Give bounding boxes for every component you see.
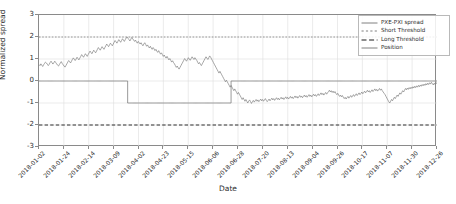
y-tick-label: 0 (20, 77, 34, 84)
solid-line-icon (361, 19, 378, 27)
dashed-line-icon (361, 36, 378, 44)
legend-item[interactable]: Long Threshold (361, 36, 446, 44)
x-tick-mark (88, 146, 89, 149)
legend-item[interactable]: PXE-PXI spread (361, 19, 446, 27)
x-tick-mark (63, 146, 64, 149)
x-tick-mark (386, 146, 387, 149)
x-tick-mark (113, 146, 114, 149)
x-tick-mark (138, 146, 139, 149)
x-tick-mark (212, 146, 213, 149)
y-tick-label: -1 (20, 99, 34, 106)
x-tick-mark (287, 146, 288, 149)
y-axis-label: Normalized spread (0, 10, 7, 80)
y-tick-label: 3 (20, 11, 34, 18)
legend-item[interactable]: Position (361, 44, 446, 52)
x-axis-label: Date (0, 184, 456, 193)
x-tick-mark (337, 146, 338, 149)
chart-figure: Normalized spread 3210-1-2-3 2018-01-022… (0, 0, 456, 204)
x-tick-mark (262, 146, 263, 149)
x-tick-mark (187, 146, 188, 149)
legend-label: Long Threshold (381, 37, 424, 43)
legend-label: Position (381, 45, 403, 51)
x-tick-mark (436, 146, 437, 149)
x-tick-mark (162, 146, 163, 149)
legend-label: Short Threshold (381, 28, 425, 34)
x-tick-mark (312, 146, 313, 149)
x-tick-mark (361, 146, 362, 149)
solid-line-icon (361, 44, 378, 52)
legend-label: PXE-PXI spread (381, 20, 423, 26)
chart-legend: PXE-PXI spread Short Threshold Long Thre… (358, 15, 450, 56)
dotted-line-icon (361, 27, 378, 35)
legend-item[interactable]: Short Threshold (361, 27, 446, 35)
x-tick-mark (411, 146, 412, 149)
x-tick-mark (237, 146, 238, 149)
y-tick-label: 2 (20, 33, 34, 40)
y-tick-label: -2 (20, 121, 34, 128)
y-tick-label: -3 (20, 143, 34, 150)
y-tick-label: 1 (20, 55, 34, 62)
x-tick-mark (38, 146, 39, 149)
